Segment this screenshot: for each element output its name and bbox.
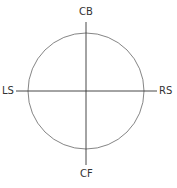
- diagram-graphic: [0, 0, 177, 188]
- label-top: CB: [79, 7, 93, 17]
- label-left: LS: [2, 86, 14, 96]
- label-right: RS: [159, 86, 172, 96]
- label-bottom: CF: [80, 169, 93, 179]
